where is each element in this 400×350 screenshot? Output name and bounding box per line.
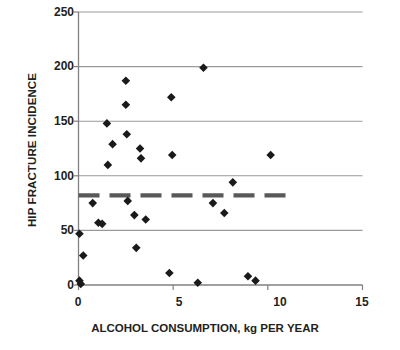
data-point xyxy=(167,93,176,102)
plot-axes xyxy=(79,12,363,285)
data-point xyxy=(141,215,150,224)
data-point xyxy=(123,197,132,206)
y-axis-ticks xyxy=(74,12,79,285)
x-axis-ticks xyxy=(79,285,363,290)
data-point xyxy=(165,269,174,278)
data-point xyxy=(122,76,131,85)
data-point xyxy=(122,101,131,110)
data-point xyxy=(193,279,202,288)
gridlines xyxy=(79,12,363,230)
data-point xyxy=(244,272,253,281)
data-point xyxy=(220,209,229,218)
data-point xyxy=(104,161,113,170)
data-point xyxy=(229,178,238,187)
data-point xyxy=(136,144,145,153)
data-point xyxy=(132,244,141,253)
data-point xyxy=(88,199,97,208)
data-point xyxy=(209,199,218,208)
data-point xyxy=(79,251,88,260)
data-point xyxy=(199,63,208,72)
data-point xyxy=(266,151,275,160)
chart-figure: HIP FRACTURE INCIDENCE 250 200 150 100 5… xyxy=(0,0,400,350)
data-point xyxy=(103,119,112,128)
data-point xyxy=(137,154,146,163)
data-point xyxy=(122,130,131,139)
data-point xyxy=(168,151,177,160)
data-point xyxy=(108,140,117,149)
data-point xyxy=(251,276,260,285)
data-point xyxy=(130,211,139,220)
scatter-plot-canvas xyxy=(0,0,400,350)
